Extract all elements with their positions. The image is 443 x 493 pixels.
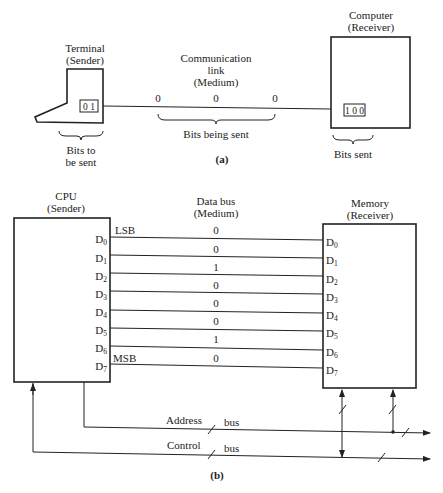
- cpu-title: CPU: [55, 190, 76, 202]
- bit-value: 0: [213, 224, 219, 236]
- terminal-title: Terminal: [65, 42, 105, 54]
- lsb-label: LSB: [115, 224, 135, 236]
- bit-value: 0: [213, 279, 219, 291]
- bit-value: 0: [213, 297, 219, 309]
- mem-pin-d4: D4: [326, 309, 338, 323]
- mem-pin-d7: D7: [326, 364, 338, 378]
- address-bus-line: [84, 382, 430, 433]
- cpu-pin-d0: D0: [95, 233, 107, 247]
- link-title2: link: [207, 64, 225, 76]
- bits-sent-label: Bits sent: [334, 148, 372, 160]
- part-a: Terminal (Sender) 0 1 Bits to be sent Co…: [35, 9, 410, 168]
- link-line: [103, 106, 331, 109]
- bit-value: 1: [213, 261, 219, 273]
- terminal-brace-line2: be sent: [66, 156, 97, 168]
- data-bus-role: (Medium): [194, 207, 239, 220]
- caption-a: (a): [216, 153, 229, 166]
- computer: Computer (Receiver) 1 0 0 Bits sent: [331, 9, 410, 160]
- cpu-pin-d7: D7: [95, 360, 107, 374]
- address-bus-label: Address: [166, 414, 202, 426]
- mem-pin-d5: D5: [326, 327, 338, 341]
- control-bus-label: Control: [167, 439, 201, 451]
- bit-value: 0: [213, 352, 219, 364]
- link-bit: 0: [272, 92, 278, 104]
- cpu-pin-d6: D6: [95, 342, 107, 356]
- cpu-role: (Sender): [47, 202, 85, 215]
- bit-value: 0: [213, 315, 219, 327]
- bits-being-sent-label: Bits being sent: [183, 128, 248, 140]
- caption-b: (b): [210, 469, 224, 482]
- address-bus: Address bus: [84, 382, 430, 437]
- link-role: (Medium): [194, 76, 239, 89]
- cpu-pin-d5: D5: [95, 324, 107, 338]
- address-bus-suffix: bus: [224, 416, 239, 428]
- mem-pin-d1: D1: [326, 254, 338, 268]
- computer-role: (Receiver): [348, 21, 395, 34]
- control-bus-slash: [378, 453, 385, 462]
- data-transfer-diagram: Terminal (Sender) 0 1 Bits to be sent Co…: [0, 0, 443, 493]
- bit-value: 0: [213, 243, 219, 255]
- link-bit: 0: [155, 92, 161, 104]
- control-bus-slash: [208, 450, 215, 459]
- link-title: Communication: [181, 52, 252, 64]
- terminal-shape: [35, 69, 103, 123]
- mem-pin-d0: D0: [326, 236, 338, 250]
- cpu-pin-d1: D1: [95, 252, 107, 266]
- control-bus-suffix: bus: [224, 442, 239, 454]
- mem-pin-d2: D2: [326, 273, 338, 287]
- link-bit: 0: [213, 92, 219, 104]
- cpu-pin-d4: D4: [95, 306, 107, 320]
- bit-value: 1: [213, 333, 219, 345]
- cpu-pin-d3: D3: [95, 288, 107, 302]
- mem-pin-d3: D3: [326, 291, 338, 305]
- data-bus-title: Data bus: [197, 195, 236, 207]
- terminal: Terminal (Sender) 0 1 Bits to be sent: [35, 42, 105, 168]
- bits-sent-brace: [333, 135, 373, 144]
- computer-title: Computer: [349, 9, 393, 21]
- address-junction-dot: [391, 430, 395, 434]
- part-b: CPU (Sender) Data bus (Medium) Memory (R…: [14, 190, 430, 482]
- terminal-role: (Sender): [66, 54, 104, 67]
- terminal-bits: 0 1: [83, 102, 95, 112]
- bits-being-sent-brace: [158, 114, 275, 124]
- computer-box: [331, 37, 410, 128]
- terminal-brace-line1: Bits to: [66, 144, 96, 156]
- communication-link: Communication link (Medium) 0 0 0 Bits b…: [103, 52, 331, 140]
- memory-role: (Receiver): [347, 209, 394, 222]
- cpu-pin-d2: D2: [95, 270, 107, 284]
- memory-title: Memory: [351, 197, 389, 209]
- mem-pin-d6: D6: [326, 346, 338, 360]
- terminal-brace: [59, 131, 103, 140]
- computer-bits: 1 0 0: [345, 106, 364, 116]
- msb-label: MSB: [113, 352, 136, 364]
